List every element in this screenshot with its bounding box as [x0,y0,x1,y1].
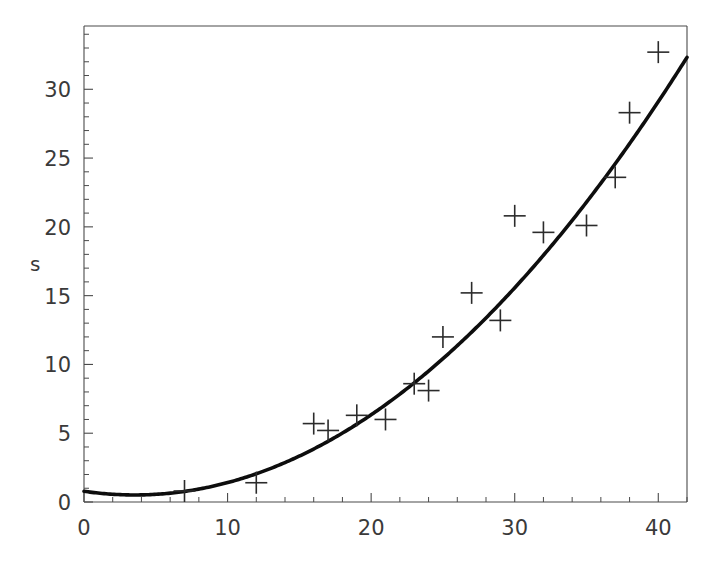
x-tick-label: 20 [358,516,385,540]
x-tick-label: 0 [77,516,90,540]
chart-container: 010203040 051015202530 s [0,0,709,562]
y-tick-label: 20 [44,216,71,240]
data-point-markers [174,41,670,502]
data-point-marker [432,326,454,348]
data-point-marker [174,480,196,502]
x-axis-tick-labels: 010203040 [77,516,671,540]
data-point-marker [461,282,483,304]
data-point-marker [619,102,641,124]
y-tick-label: 0 [58,491,71,515]
y-tick-label: 15 [44,285,71,309]
data-point-marker [418,380,440,402]
scatter-plot-figure: 010203040 051015202530 s [0,0,709,562]
data-point-marker [576,214,598,236]
data-point-marker [346,404,368,426]
x-tick-label: 30 [501,516,528,540]
y-tick-label: 10 [44,353,71,377]
y-axis-title: s [30,252,40,276]
y-tick-label: 25 [44,147,71,171]
data-point-marker [647,41,669,63]
y-axis-tick-labels: 051015202530 [44,78,71,515]
x-tick-label: 10 [214,516,241,540]
data-point-marker [532,221,554,243]
y-tick-label: 30 [44,78,71,102]
y-tick-label: 5 [58,422,71,446]
data-point-marker [604,166,626,188]
y-axis-ticks [84,34,93,502]
data-point-marker [303,413,325,435]
data-point-marker [504,205,526,227]
x-tick-label: 40 [645,516,672,540]
plot-frame [84,26,687,502]
